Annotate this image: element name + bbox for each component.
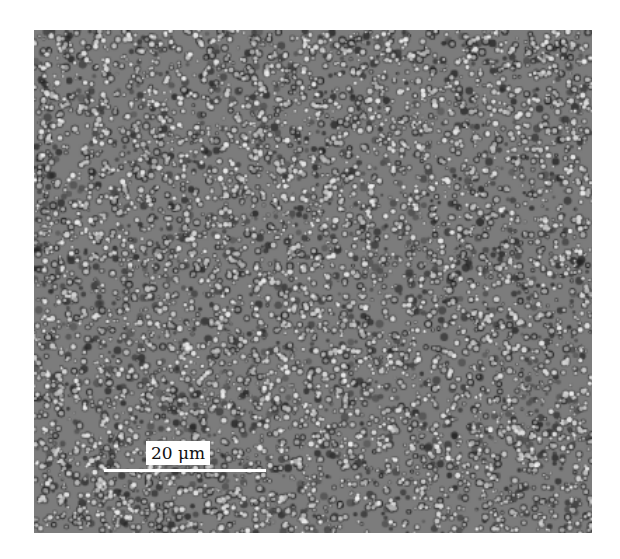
scale-bar [104, 469, 266, 472]
micrograph-image: 20 μm [34, 30, 592, 533]
porous-texture [34, 30, 592, 533]
scale-bar-label: 20 μm [146, 441, 210, 465]
